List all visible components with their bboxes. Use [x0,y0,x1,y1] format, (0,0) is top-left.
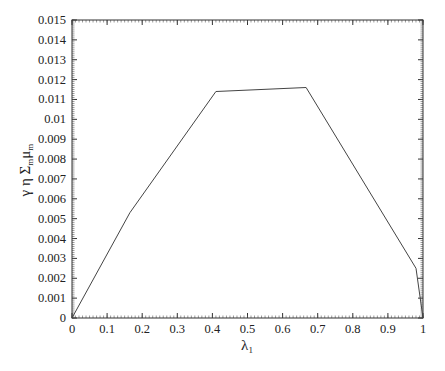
x-tick-label: 0.3 [169,322,185,336]
y-tick-label: 0.004 [38,232,67,246]
y-tick-label: 0.003 [38,251,66,265]
x-tick-label: 1 [420,322,426,336]
y-tick-label: 0.008 [38,152,66,166]
y-tick-label: 0.001 [38,291,66,305]
y-tick-label: 0 [60,311,66,325]
x-tick-label: 0.8 [345,322,361,336]
data-line [72,88,423,319]
plot-frame [72,20,423,318]
y-tick-label: 0.002 [38,271,66,285]
y-tick-label: 0.013 [38,53,66,67]
y-tick-label: 0.01 [44,112,66,126]
y-tick-label: 0.014 [38,33,67,47]
y-tick-label: 0.006 [38,192,66,206]
x-axis-ticks: 00.10.20.30.40.50.60.70.80.91 [69,20,426,336]
y-tick-label: 0.009 [38,132,66,146]
y-tick-label: 0.015 [38,13,66,27]
y-axis-ticks: 00.0010.0020.0030.0040.0050.0060.0070.00… [38,13,423,325]
y-tick-label: 0.005 [38,212,66,226]
x-tick-label: 0.9 [380,322,396,336]
x-tick-label: 0.1 [99,322,115,336]
x-tick-label: 0.4 [205,322,221,336]
line-chart: 00.0010.0020.0030.0040.0050.0060.0070.00… [0,0,445,371]
x-tick-label: 0 [69,322,75,336]
x-tick-label: 0.2 [134,322,150,336]
x-tick-label: 0.5 [240,322,256,336]
x-axis-label: λ1 [241,337,253,355]
y-axis-label: γ η Σmμm [17,144,35,198]
y-tick-label: 0.007 [38,172,66,186]
y-tick-label: 0.011 [38,92,66,106]
x-tick-label: 0.6 [275,322,291,336]
x-tick-label: 0.7 [310,322,326,336]
y-tick-label: 0.012 [38,73,66,87]
